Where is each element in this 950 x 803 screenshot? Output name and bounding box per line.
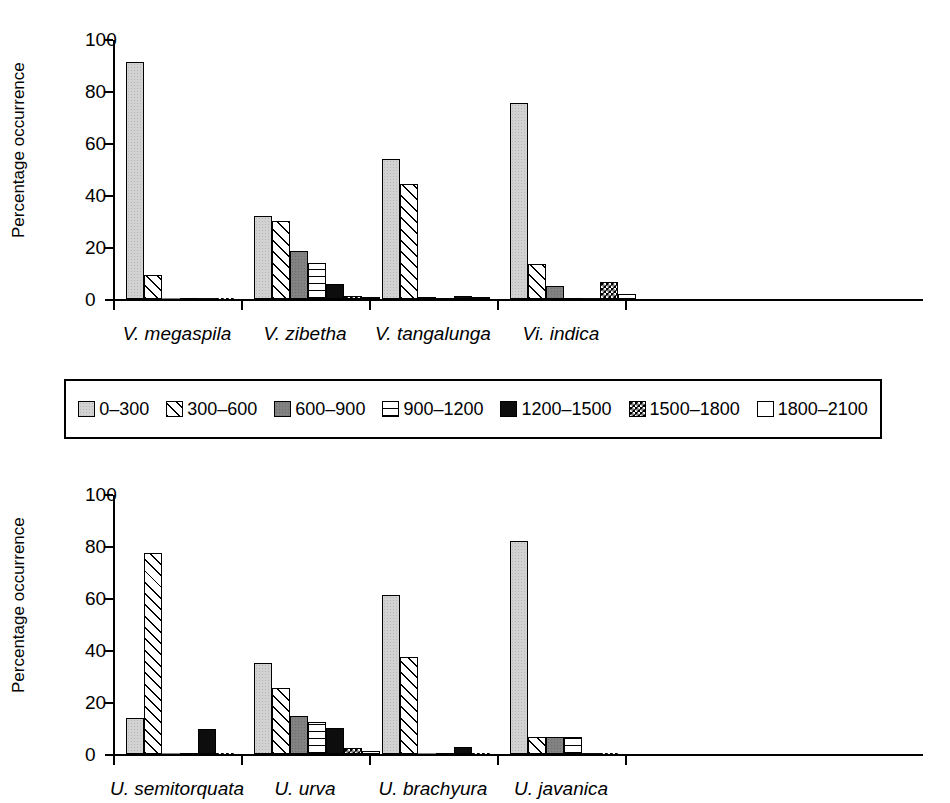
- legend-item: 0–300: [78, 399, 149, 420]
- bar-300-600: [528, 737, 546, 754]
- y-tick-label-40: 40: [85, 640, 93, 662]
- bar-1500-1800: [344, 296, 362, 299]
- legend-item: 600–900: [274, 399, 365, 420]
- x-axis-category-label: U. javanica: [514, 778, 608, 800]
- legend-label: 0–300: [99, 399, 149, 420]
- chart-panel-top: Percentage occurrence 020406080100V. meg…: [0, 0, 950, 360]
- bar-1200-1500: [454, 296, 472, 299]
- bar-group: [241, 39, 369, 299]
- legend-swatch-diagonal-hatch-icon: [166, 401, 183, 417]
- bar-stack: [382, 39, 508, 299]
- bar-1200-1500: [582, 753, 600, 754]
- legend: 0–300300–600600–900900–12001200–15001500…: [64, 379, 882, 439]
- bar-1800-2100: [618, 294, 636, 299]
- legend-swatch-white-empty-icon: [757, 401, 774, 417]
- y-axis-label-top: Percentage occurrence: [6, 0, 32, 300]
- legend-swatch-checkered-icon: [629, 401, 646, 417]
- x-tick-0: [113, 299, 115, 310]
- legend-label: 1500–1800: [650, 399, 740, 420]
- y-tick-label-60: 60: [85, 133, 93, 155]
- bar-1500-1800: [600, 753, 618, 754]
- bar-900-1200: [308, 263, 326, 299]
- x-tick-2: [369, 299, 371, 310]
- x-axis-line-bottom: [113, 754, 923, 756]
- y-tick-label-100: 100: [85, 484, 93, 506]
- bar-stack: [382, 494, 508, 754]
- bar-0-300: [126, 718, 144, 754]
- x-axis-category-label: V. tangalunga: [375, 323, 491, 345]
- bar-stack: [126, 39, 252, 299]
- y-tick-label-0: 0: [85, 744, 93, 766]
- y-tick-label-40: 40: [85, 185, 93, 207]
- legend-item: 1200–1500: [500, 399, 611, 420]
- bar-600-900: [546, 286, 564, 299]
- bar-group: [369, 39, 497, 299]
- bar-600-900: [546, 737, 564, 754]
- figure-root: Percentage occurrence 020406080100V. meg…: [0, 0, 950, 803]
- legend-swatch-light-grey-stipple-icon: [78, 401, 95, 417]
- bar-0-300: [510, 103, 528, 299]
- bar-1500-1800: [600, 282, 618, 299]
- x-axis-category-label: V. megaspila: [123, 323, 231, 345]
- x-tick-0: [113, 754, 115, 765]
- bar-1500-1800: [472, 297, 490, 299]
- bar-1500-1800: [216, 753, 234, 754]
- bar-600-900: [418, 753, 436, 754]
- bar-1200-1500: [582, 298, 600, 299]
- x-axis-category-label: Vi. indica: [523, 323, 600, 345]
- bar-900-1200: [436, 753, 454, 754]
- bar-group: [497, 39, 625, 299]
- bar-600-900: [162, 298, 180, 299]
- bar-group: [113, 494, 241, 754]
- legend-label: 900–1200: [403, 399, 483, 420]
- bar-1500-1800: [472, 753, 490, 754]
- x-tick-4: [625, 754, 627, 765]
- legend-label: 1800–2100: [778, 399, 868, 420]
- bar-900-1200: [564, 737, 582, 754]
- bar-1200-1500: [326, 284, 344, 299]
- bar-stack: [126, 494, 252, 754]
- bar-300-600: [400, 184, 418, 299]
- bar-1500-1800: [344, 748, 362, 755]
- y-tick-0: [105, 299, 113, 301]
- x-tick-1: [241, 754, 243, 765]
- bar-900-1200: [308, 722, 326, 755]
- y-tick-40: [105, 195, 113, 197]
- bar-1200-1500: [198, 729, 216, 754]
- bar-900-1200: [180, 753, 198, 754]
- bar-group: [113, 39, 241, 299]
- bar-900-1200: [564, 298, 582, 299]
- bar-1500-1800: [216, 298, 234, 299]
- bar-stack: [510, 39, 636, 299]
- bar-0-300: [254, 663, 272, 754]
- y-tick-label-20: 20: [85, 237, 93, 259]
- y-tick-label-80: 80: [85, 536, 93, 558]
- y-tick-label-80: 80: [85, 81, 93, 103]
- x-tick-1: [241, 299, 243, 310]
- y-tick-80: [105, 91, 113, 93]
- bar-900-1200: [180, 298, 198, 299]
- bar-600-900: [162, 753, 180, 754]
- x-tick-3: [497, 754, 499, 765]
- bar-600-900: [290, 716, 308, 754]
- bar-600-900: [418, 297, 436, 299]
- bar-group: [241, 494, 369, 754]
- bar-300-600: [528, 264, 546, 299]
- legend-item: 1800–2100: [757, 399, 868, 420]
- bar-group: [369, 494, 497, 754]
- plot-area-bottom: 020406080100U. semitorquataU. urvaU. bra…: [113, 495, 923, 755]
- y-tick-label-0: 0: [85, 289, 93, 311]
- y-tick-60: [105, 598, 113, 600]
- x-axis-category-label: U. urva: [274, 778, 335, 800]
- legend-item: 900–1200: [382, 399, 483, 420]
- bar-1200-1500: [454, 747, 472, 754]
- y-tick-80: [105, 546, 113, 548]
- bar-0-300: [510, 541, 528, 754]
- x-tick-3: [497, 299, 499, 310]
- legend-swatch-solid-black-icon: [500, 401, 517, 417]
- bar-0-300: [382, 595, 400, 754]
- bar-300-600: [144, 553, 162, 755]
- bar-0-300: [254, 216, 272, 299]
- y-axis-label-bottom: Percentage occurrence: [6, 455, 32, 755]
- legend-swatch-dark-grey-solid-icon: [274, 401, 291, 417]
